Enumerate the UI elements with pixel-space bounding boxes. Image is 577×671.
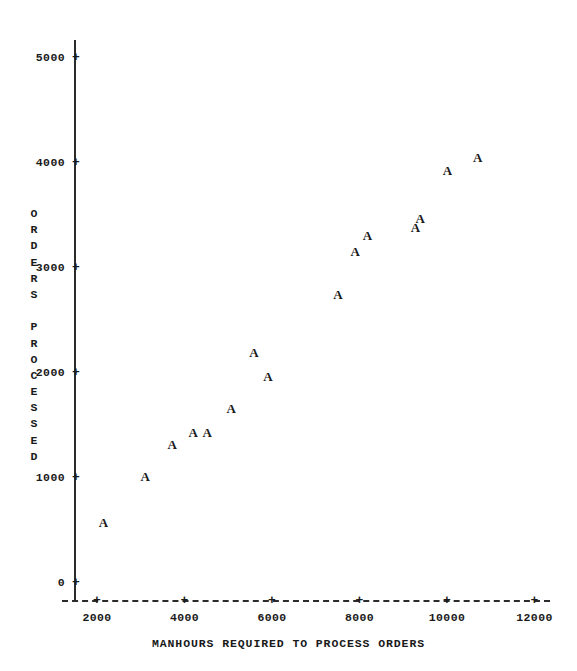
x-axis-tick-label: 4000 — [150, 612, 220, 624]
scatter-plot-figure: +0+1000+2000+3000+4000+5000 ORDERS PROCE… — [0, 0, 577, 671]
x-axis-tick-mark: + — [441, 594, 453, 607]
y-axis-title-char: E — [26, 384, 42, 400]
data-point-marker: A — [361, 229, 373, 242]
data-point-marker: A — [262, 370, 274, 383]
data-point-marker: A — [98, 516, 110, 529]
y-axis-title-char: S — [26, 400, 42, 416]
y-axis-tick-label: 0 — [58, 577, 65, 589]
x-axis-tick-label: 10000 — [412, 612, 482, 624]
x-axis-tick-label: 2000 — [62, 612, 132, 624]
y-axis-title-char: R — [26, 271, 42, 287]
y-axis-tick-mark: + — [70, 156, 82, 169]
y-axis-title-char: D — [26, 449, 42, 465]
data-point-marker: A — [201, 426, 213, 439]
y-axis-tick-label: 4000 — [36, 157, 65, 169]
y-axis-title-char: E — [26, 433, 42, 449]
data-point-marker: A — [332, 288, 344, 301]
y-axis-title-char: R — [26, 222, 42, 238]
y-axis-tick-mark: + — [70, 576, 82, 589]
y-axis-title-char — [26, 303, 42, 319]
y-axis-title-char: E — [26, 255, 42, 271]
y-axis-title-char: S — [26, 287, 42, 303]
x-axis-tick-label: 12000 — [500, 612, 570, 624]
y-axis-title-char: S — [26, 416, 42, 432]
y-axis-title: ORDERS PROCESSED — [26, 206, 42, 465]
y-axis-title-char: P — [26, 319, 42, 335]
x-axis-tick-mark: + — [179, 594, 191, 607]
data-point-marker: A — [187, 426, 199, 439]
x-axis-tick-mark: + — [354, 594, 366, 607]
y-axis-title-char: D — [26, 238, 42, 254]
x-axis-tick-mark: + — [266, 594, 278, 607]
y-axis-title-char: R — [26, 336, 42, 352]
data-point-marker: A — [349, 245, 361, 258]
data-point-marker: A — [441, 164, 453, 177]
x-axis-tick-mark: + — [529, 594, 541, 607]
y-axis-title-char: O — [26, 352, 42, 368]
data-point-marker: A — [166, 438, 178, 451]
x-axis-tick-label: 8000 — [325, 612, 395, 624]
y-axis-line — [74, 40, 76, 601]
x-axis-title: MANHOURS REQUIRED TO PROCESS ORDERS — [0, 637, 577, 650]
data-point-marker: A — [139, 470, 151, 483]
y-axis-tick-label: 5000 — [36, 52, 65, 64]
y-axis-tick-mark: + — [70, 51, 82, 64]
data-point-marker: A — [225, 402, 237, 415]
x-axis-line — [62, 600, 550, 602]
y-axis-tick-mark: + — [70, 261, 82, 274]
y-axis-tick-mark: + — [70, 366, 82, 379]
x-axis-tick-mark: + — [91, 594, 103, 607]
y-axis-title-char: O — [26, 206, 42, 222]
y-axis-tick-mark: + — [70, 471, 82, 484]
y-axis-tick-label: 1000 — [36, 472, 65, 484]
data-point-marker: A — [248, 346, 260, 359]
y-axis-title-char: C — [26, 368, 42, 384]
x-axis-tick-label: 6000 — [237, 612, 307, 624]
data-point-marker: A — [414, 212, 426, 225]
data-point-marker: A — [472, 151, 484, 164]
